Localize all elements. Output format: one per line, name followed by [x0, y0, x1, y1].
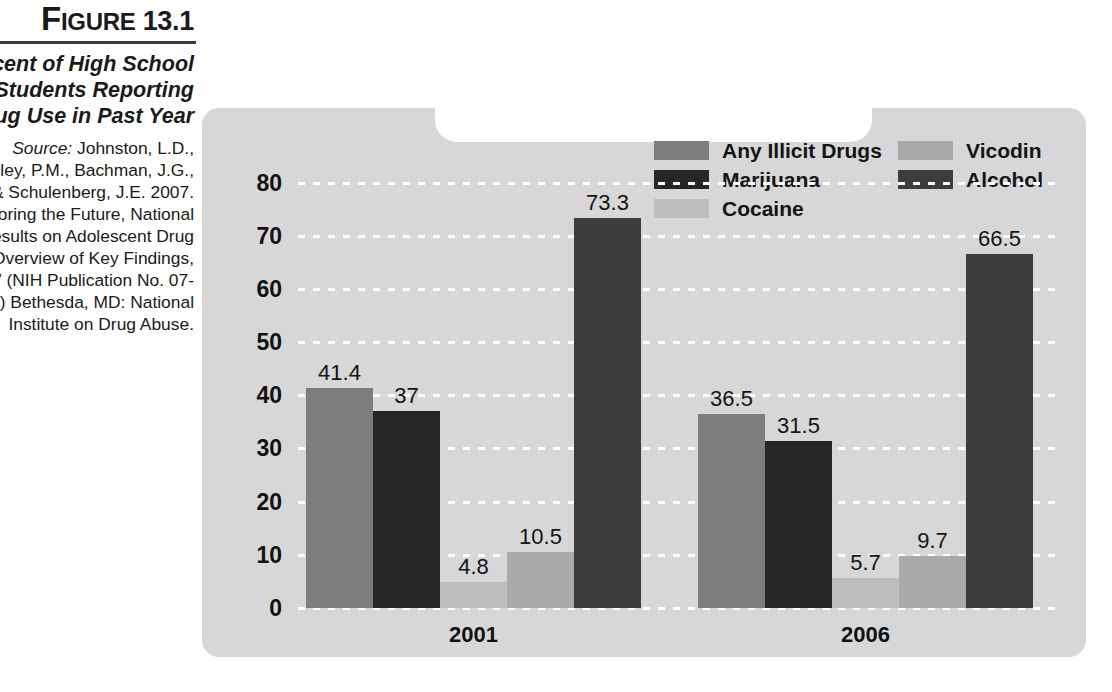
figure-label-rest: IGURE [61, 8, 136, 35]
x-axis-group-label: 2001 [306, 622, 641, 648]
bar[interactable]: 37 [373, 411, 440, 608]
bar[interactable]: 31.5 [765, 441, 832, 609]
bar-value-label: 36.5 [710, 386, 753, 412]
y-axis-tick-label: 50 [204, 329, 282, 356]
bar-value-label: 66.5 [978, 226, 1021, 252]
bar-value-label: 73.3 [586, 190, 629, 216]
bar-value-label: 4.8 [458, 554, 489, 580]
y-axis-tick-label: 30 [204, 435, 282, 462]
y-axis-tick-label: 60 [204, 275, 282, 302]
bar[interactable]: 66.5 [966, 254, 1033, 608]
figure-label-initial: F [41, 0, 61, 37]
source-citation: Johnston, L.D., O'Malley, P.M., Bachman,… [0, 138, 194, 334]
bar[interactable]: 41.4 [306, 388, 373, 608]
bar-value-label: 31.5 [777, 413, 820, 439]
bar-value-label: 5.7 [850, 550, 881, 576]
x-axis-group-label: 2006 [698, 622, 1033, 648]
bar[interactable]: 10.5 [507, 552, 574, 608]
plot-area: 01020304050607080 41.4374.810.573.336.53… [294, 156, 1060, 608]
bar-value-label: 41.4 [318, 360, 361, 386]
chart-panel: Any Illicit Drugs Vicodin Marijuana Alco… [202, 108, 1086, 657]
figure-source: Source: Johnston, L.D., O'Malley, P.M., … [0, 137, 196, 335]
y-axis-tick-label: 10 [204, 541, 282, 568]
figure-title: Percent of High School Students Reportin… [0, 51, 196, 129]
y-axis-tick-label: 20 [204, 488, 282, 515]
y-axis-tick-label: 80 [204, 169, 282, 196]
gridline [294, 235, 1060, 238]
gridline [294, 288, 1060, 291]
bar-value-label: 37 [394, 383, 418, 409]
bar-value-label: 10.5 [519, 524, 562, 550]
figure-number-heading: FIGURE 13.1 [0, 2, 196, 35]
bar[interactable]: 5.7 [832, 578, 899, 608]
bar-value-label: 9.7 [917, 528, 948, 554]
y-axis-tick-label: 0 [204, 595, 282, 622]
figure-caption-block: FIGURE 13.1 Percent of High School Stude… [0, 2, 196, 335]
bar[interactable]: 36.5 [698, 414, 765, 608]
y-axis-tick-label: 70 [204, 222, 282, 249]
figure-number: 13.1 [143, 6, 194, 36]
y-axis-tick-label: 40 [204, 382, 282, 409]
bar[interactable]: 4.8 [440, 582, 507, 608]
gridline [294, 341, 1060, 344]
bar[interactable]: 9.7 [899, 556, 966, 608]
gridline [294, 182, 1060, 185]
source-label: Source: [12, 138, 72, 158]
bar[interactable]: 73.3 [574, 218, 641, 608]
caption-divider [0, 41, 196, 44]
